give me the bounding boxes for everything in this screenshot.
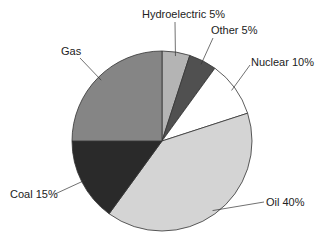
leader-line-coal <box>55 180 85 194</box>
slice-label-gas: Gas <box>61 45 82 57</box>
slice-label-coal: Coal 15% <box>10 188 58 200</box>
leader-line-nuclear <box>232 65 250 90</box>
pie-chart: Hydroelectric 5%Other 5%Nuclear 10%Oil 4… <box>0 0 316 242</box>
pie-slice-gas <box>72 51 162 141</box>
slice-label-oil: Oil 40% <box>266 196 305 208</box>
slice-label-hydroelectric: Hydroelectric 5% <box>142 8 225 20</box>
leader-line-other <box>201 38 213 64</box>
slice-label-nuclear: Nuclear 10% <box>251 56 314 68</box>
leader-line-gas <box>80 58 101 80</box>
slice-label-other: Other 5% <box>211 24 258 36</box>
